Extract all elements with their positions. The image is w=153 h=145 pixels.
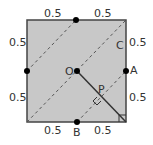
label-a: A xyxy=(130,64,138,77)
point-left-mid xyxy=(24,68,30,74)
side-label-left-bottom: 0.5 xyxy=(9,91,27,104)
label-p: P xyxy=(98,83,105,96)
point-top-mid xyxy=(73,17,79,23)
label-b: B xyxy=(73,126,81,139)
geometry-diagram: O A B C P 0.5 0.5 0.5 0.5 0.5 0.5 0.5 0.… xyxy=(0,0,153,145)
side-label-right-bottom: 0.5 xyxy=(129,91,147,104)
side-label-top-right: 0.5 xyxy=(94,7,112,20)
point-b xyxy=(74,119,80,125)
side-label-right-top: 0.5 xyxy=(129,36,147,49)
side-label-top-left: 0.5 xyxy=(44,7,62,20)
point-a xyxy=(123,68,129,74)
label-c: C xyxy=(116,39,124,52)
side-label-left-top: 0.5 xyxy=(9,36,27,49)
label-o: O xyxy=(65,65,74,78)
side-label-bottom-left: 0.5 xyxy=(44,124,62,137)
side-label-bottom-right: 0.5 xyxy=(94,124,112,137)
point-o xyxy=(74,68,80,74)
